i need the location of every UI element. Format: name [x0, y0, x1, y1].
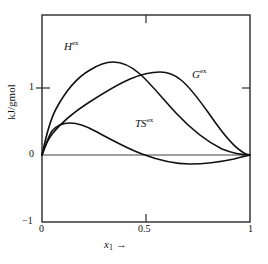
y-axis-label: kJ/gmol — [5, 67, 17, 137]
x-tick-label-half: 0.5 — [138, 223, 151, 234]
label-G-ex-superscript: ex — [200, 67, 207, 75]
x-tick-label-1: 1 — [248, 223, 253, 234]
x-axis-label-subscript: 1 — [109, 243, 113, 252]
x-tick-label-0: 0 — [39, 223, 44, 234]
x-axis-label: x1→ — [104, 238, 127, 252]
x-axis-arrow-icon: → — [116, 238, 127, 250]
label-TS-ex-symbol: TS — [135, 117, 147, 129]
label-H-ex-symbol: H — [64, 40, 72, 52]
excess-properties-chart: kJ/gmol x1→ 1 0 −1 0 0.5 1 Hex Gex TSex — [0, 0, 268, 264]
label-G-ex: Gex — [192, 68, 207, 80]
y-tick-label-1: 1 — [29, 81, 34, 92]
label-TS-ex: TSex — [135, 117, 153, 129]
label-H-ex-superscript: ex — [72, 39, 79, 47]
label-H-ex: Hex — [64, 40, 79, 52]
label-G-ex-symbol: G — [192, 68, 200, 80]
label-TS-ex-superscript: ex — [147, 116, 154, 124]
y-tick-label-neg1: −1 — [22, 215, 33, 226]
y-tick-label-0: 0 — [29, 148, 34, 159]
